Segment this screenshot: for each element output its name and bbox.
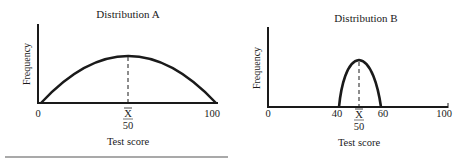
chart-b-tick-0: 0 bbox=[265, 108, 270, 119]
chart-a-tick-0: 0 bbox=[35, 108, 40, 119]
chart-b-y-label: Frequency bbox=[251, 47, 262, 89]
chart-b-mean-value: 50 bbox=[354, 121, 365, 132]
chart-b-curve bbox=[339, 60, 381, 107]
chart-a-title: Distribution A bbox=[96, 8, 159, 20]
chart-b: Distribution B Frequency 0 40 60 100 X 5… bbox=[251, 12, 452, 148]
chart-a-tick-100: 100 bbox=[204, 108, 220, 119]
figure: Distribution A Frequency 0 100 X 50 Test… bbox=[0, 0, 455, 163]
chart-b-mean-symbol: X bbox=[355, 109, 363, 120]
chart-b-x-label: Test score bbox=[338, 137, 380, 148]
chart-a-mean-value: 50 bbox=[123, 120, 134, 131]
chart-b-tick-40: 40 bbox=[332, 108, 343, 119]
chart-b-tick-60: 60 bbox=[378, 108, 389, 119]
chart-a-mean-symbol: X bbox=[124, 108, 132, 119]
chart-b-title: Distribution B bbox=[334, 12, 397, 24]
chart-a-x-label: Test score bbox=[107, 136, 149, 147]
chart-a-y-label: Frequency bbox=[21, 43, 32, 85]
chart-b-tick-100: 100 bbox=[436, 108, 452, 119]
chart-a: Distribution A Frequency 0 100 X 50 Test… bbox=[5, 8, 228, 157]
